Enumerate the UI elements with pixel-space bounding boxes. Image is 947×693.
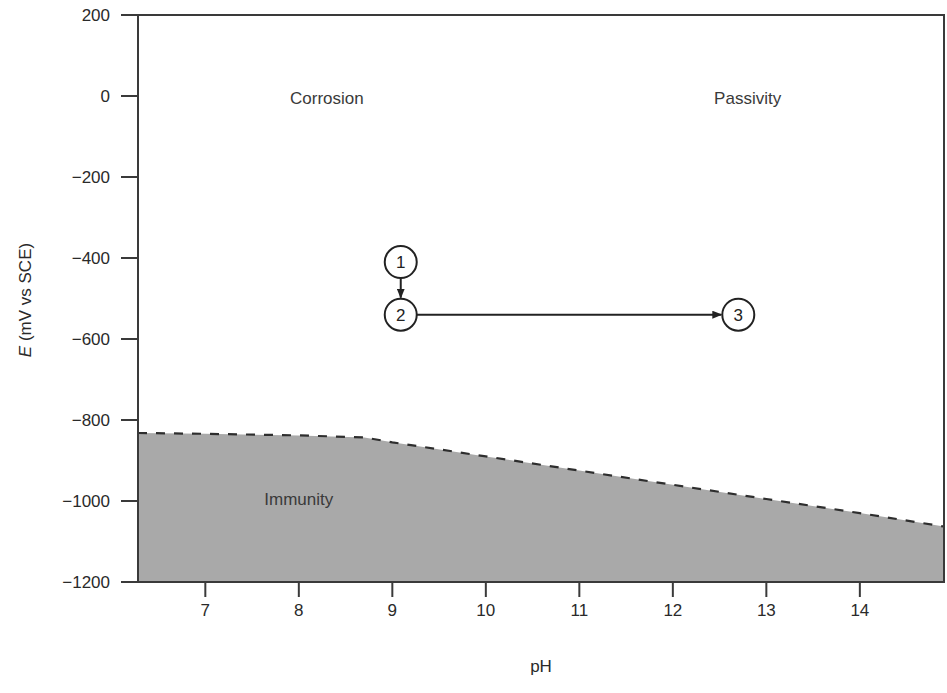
x-tick-label: 7 — [201, 601, 210, 620]
region-label-passivity: Passivity — [714, 89, 782, 108]
y-axis-title: E (mV vs SCE) — [16, 243, 35, 357]
y-tick-label: −600 — [72, 330, 110, 349]
state-number: 3 — [734, 306, 743, 325]
x-tick-label: 9 — [388, 601, 397, 620]
x-axis: 7891011121314 — [201, 582, 870, 620]
y-tick-label: −200 — [72, 168, 110, 187]
pourbaix-chart: 2000−200−400−600−800−1000−1200 789101112… — [0, 0, 947, 693]
x-tick-label: 14 — [850, 601, 869, 620]
state-marker-1: 1 — [385, 246, 417, 278]
x-tick-label: 12 — [663, 601, 682, 620]
state-marker-2: 2 — [385, 299, 417, 331]
state-number: 1 — [396, 253, 405, 272]
y-tick-label: −1200 — [62, 573, 110, 592]
region-label-immunity: Immunity — [264, 490, 333, 509]
state-marker-3: 3 — [722, 299, 754, 331]
x-axis-title: pH — [530, 657, 552, 676]
y-tick-label: 200 — [82, 6, 110, 25]
y-axis-title-symbol: E — [16, 345, 35, 357]
x-tick-label: 13 — [757, 601, 776, 620]
region-label-corrosion: Corrosion — [290, 89, 364, 108]
y-axis-title-unit: (mV vs SCE) — [16, 243, 35, 346]
y-tick-label: 0 — [101, 87, 110, 106]
x-tick-label: 11 — [571, 601, 589, 620]
transition-arrows — [401, 278, 722, 315]
x-tick-label: 10 — [476, 601, 495, 620]
y-axis: 2000−200−400−600−800−1000−1200 — [62, 6, 138, 592]
y-tick-label: −800 — [72, 411, 110, 430]
state-number: 2 — [396, 306, 405, 325]
y-tick-label: −1000 — [62, 492, 110, 511]
y-tick-label: −400 — [72, 249, 110, 268]
state-markers: 123 — [385, 246, 755, 331]
x-tick-label: 8 — [294, 601, 303, 620]
